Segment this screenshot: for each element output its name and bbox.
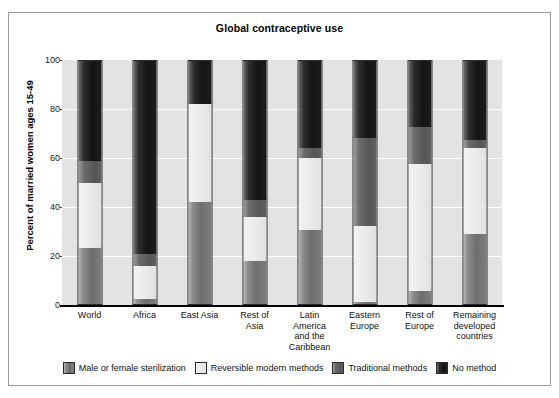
bar-segment xyxy=(408,61,431,127)
stacked-bar[interactable] xyxy=(407,60,432,305)
bar-segment xyxy=(188,202,211,304)
bar-segment xyxy=(408,164,431,290)
bar-group[interactable] xyxy=(282,60,337,305)
bar-segment xyxy=(243,200,266,217)
bar-segment xyxy=(463,140,486,149)
bar-segment xyxy=(133,266,156,299)
bar-group[interactable] xyxy=(62,60,117,305)
bar-segment xyxy=(133,299,156,304)
bar-segment xyxy=(133,61,156,254)
bar-group[interactable] xyxy=(117,60,172,305)
bar-segment xyxy=(243,261,266,304)
reversible-swatch xyxy=(195,362,207,374)
x-tick-label-line: countries xyxy=(439,331,511,342)
stacked-bar[interactable] xyxy=(132,60,157,305)
x-tick-label-line: and the xyxy=(274,331,346,342)
bar-segment xyxy=(243,61,266,200)
legend-item[interactable]: Traditional methods xyxy=(332,362,427,374)
bar-segment xyxy=(78,161,101,183)
bar-segment xyxy=(408,127,431,165)
y-axis-ticks: 020406080100 xyxy=(4,0,60,398)
y-tick-label: 60 xyxy=(12,153,60,163)
legend-label: Male or female sterilization xyxy=(79,363,186,373)
bar-segment xyxy=(463,61,486,140)
bar-segment xyxy=(353,61,376,138)
bar-group[interactable] xyxy=(337,60,392,305)
legend-label: Traditional methods xyxy=(348,363,427,373)
bar-segment xyxy=(463,148,486,233)
legend-item[interactable]: No method xyxy=(436,362,496,374)
x-axis-line xyxy=(60,305,504,307)
chart-figure: Global contraceptive use Percent of marr… xyxy=(0,0,559,398)
bar-segment xyxy=(353,302,376,304)
x-tick-label-line: Caribbean xyxy=(274,342,346,353)
bar-segment xyxy=(78,248,101,304)
bar-group[interactable] xyxy=(172,60,227,305)
bar-segment xyxy=(78,183,101,249)
bar-group[interactable] xyxy=(392,60,447,305)
bar-segment xyxy=(188,104,211,202)
bar-segment xyxy=(353,226,376,301)
no-method-swatch xyxy=(436,362,448,374)
bars-layer xyxy=(62,60,502,305)
y-tick-label: 40 xyxy=(12,202,60,212)
bar-group[interactable] xyxy=(447,60,502,305)
y-tick-label: 0 xyxy=(12,300,60,310)
legend-label: Reversible modern methods xyxy=(211,363,324,373)
bar-segment xyxy=(298,230,321,304)
bar-segment xyxy=(133,254,156,266)
bar-segment xyxy=(353,138,376,227)
traditional-swatch xyxy=(332,362,344,374)
bar-group[interactable] xyxy=(227,60,282,305)
x-tick-label: Remainingdevelopedcountries xyxy=(439,310,511,342)
stacked-bar[interactable] xyxy=(77,60,102,305)
sterilization-swatch xyxy=(63,362,75,374)
stacked-bar[interactable] xyxy=(242,60,267,305)
y-tick-label: 80 xyxy=(12,104,60,114)
bar-segment xyxy=(408,291,431,304)
bar-segment xyxy=(78,61,101,161)
bar-segment xyxy=(298,148,321,158)
chart-legend: Male or female sterilizationReversible m… xyxy=(0,362,559,374)
chart-title: Global contraceptive use xyxy=(0,22,559,34)
legend-item[interactable]: Male or female sterilization xyxy=(63,362,186,374)
bar-segment xyxy=(188,61,211,104)
bar-segment xyxy=(243,217,266,262)
bar-segment xyxy=(298,61,321,148)
y-tick-label: 100 xyxy=(12,55,60,65)
legend-item[interactable]: Reversible modern methods xyxy=(195,362,324,374)
stacked-bar[interactable] xyxy=(187,60,212,305)
legend-label: No method xyxy=(452,363,496,373)
x-tick-label-line: developed xyxy=(439,321,511,332)
stacked-bar[interactable] xyxy=(462,60,487,305)
bar-segment xyxy=(298,158,321,230)
bar-segment xyxy=(463,234,486,304)
y-tick-label: 20 xyxy=(12,251,60,261)
stacked-bar[interactable] xyxy=(352,60,377,305)
x-tick-label-line: Remaining xyxy=(439,310,511,321)
stacked-bar[interactable] xyxy=(297,60,322,305)
